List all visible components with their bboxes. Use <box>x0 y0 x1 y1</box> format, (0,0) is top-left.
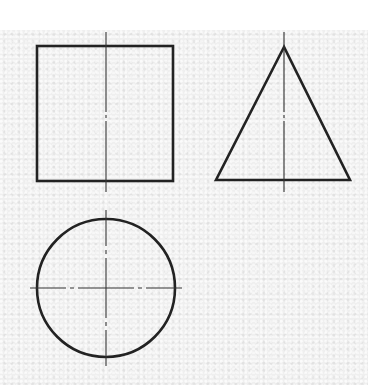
top-view <box>30 210 182 366</box>
side-view <box>216 32 350 192</box>
side-view-triangle-outline <box>216 47 350 180</box>
front-view <box>37 32 173 192</box>
drawing-canvas <box>0 0 368 385</box>
three-view-drawing <box>0 0 368 385</box>
front-view-square-outline <box>37 46 173 181</box>
